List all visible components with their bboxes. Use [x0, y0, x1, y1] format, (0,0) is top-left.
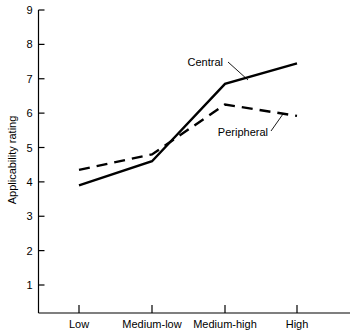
annotation-label-central: Central	[188, 56, 223, 68]
data-series-group	[79, 63, 297, 185]
y-axis-tick-labels: 123456789	[26, 4, 32, 291]
chart-container: 123456789 LowMedium-lowMedium-highHigh A…	[0, 0, 357, 334]
y-tick-label: 6	[26, 107, 32, 119]
annotation-leader-central	[228, 62, 248, 80]
series-annotations: CentralPeripheral	[188, 56, 283, 138]
y-tick-label: 5	[26, 142, 32, 154]
y-tick-label: 1	[26, 279, 32, 291]
x-axis-ticks	[79, 305, 297, 313]
x-axis-category-labels: LowMedium-lowMedium-highHigh	[69, 318, 308, 330]
x-category-label: Medium-high	[193, 318, 257, 330]
y-axis-title: Applicability rating	[6, 116, 18, 205]
y-tick-label: 4	[26, 176, 32, 188]
y-tick-label: 3	[26, 210, 32, 222]
x-category-label: Low	[69, 318, 89, 330]
y-axis-ticks	[39, 10, 45, 285]
annotation-leader-peripheral	[271, 114, 283, 131]
y-tick-label: 8	[26, 38, 32, 50]
annotation-label-peripheral: Peripheral	[218, 126, 268, 138]
y-tick-label: 2	[26, 245, 32, 257]
line-chart: 123456789 LowMedium-lowMedium-highHigh A…	[0, 0, 357, 334]
y-tick-label: 9	[26, 4, 32, 16]
y-tick-label: 7	[26, 73, 32, 85]
x-category-label: High	[286, 318, 309, 330]
x-category-label: Medium-low	[122, 318, 181, 330]
series-line-central	[79, 63, 297, 185]
